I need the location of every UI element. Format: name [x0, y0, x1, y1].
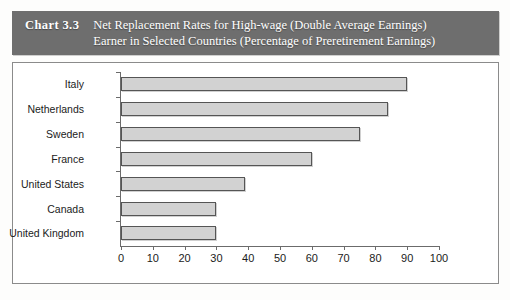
y-axis-tick [116, 196, 120, 197]
chart-title-line-2: Earner in Selected Countries (Percentage… [93, 33, 435, 49]
bar-row: Canada [13, 196, 498, 221]
y-axis-tick [116, 221, 120, 222]
bar [121, 152, 312, 166]
bar-row: France [13, 147, 498, 172]
chart-title: Chart 3.3 Net Replacement Rates for High… [25, 17, 435, 49]
y-axis-tick [116, 122, 120, 123]
chart-number-label: Chart 3.3 [25, 17, 79, 33]
x-axis-tick-label: 70 [337, 252, 349, 264]
x-axis-tick-label: 30 [210, 252, 222, 264]
bar [121, 127, 360, 141]
category-label: France [0, 153, 84, 165]
category-label: United States [0, 178, 84, 190]
x-axis-tick-label: 90 [401, 252, 413, 264]
chart-figure: Chart 3.3 Net Replacement Rates for High… [0, 0, 510, 300]
x-axis-tick [153, 246, 154, 250]
category-label: Netherlands [0, 103, 84, 115]
bar [121, 202, 216, 216]
chart-title-line-1: Net Replacement Rates for High-wage (Dou… [93, 17, 435, 33]
chart-title-text: Net Replacement Rates for High-wage (Dou… [93, 17, 435, 49]
x-axis-tick-label: 80 [369, 252, 381, 264]
plot-area: ItalyNetherlandsSwedenFranceUnited State… [13, 63, 498, 283]
bar-row: Italy [13, 72, 498, 97]
x-axis-tick-label: 60 [306, 252, 318, 264]
bar [121, 226, 216, 240]
x-axis-tick [248, 246, 249, 250]
plot-panel: ItalyNetherlandsSwedenFranceUnited State… [12, 62, 499, 284]
bar-rows: ItalyNetherlandsSwedenFranceUnited State… [13, 72, 498, 246]
x-axis-tick-label: 40 [242, 252, 254, 264]
x-axis-tick [185, 246, 186, 250]
bar [121, 177, 245, 191]
category-label: Sweden [0, 128, 84, 140]
y-axis-tick [116, 97, 120, 98]
x-axis-tick [407, 246, 408, 250]
x-axis-tick-label: 0 [118, 252, 124, 264]
bar-row: Sweden [13, 122, 498, 147]
bar [121, 77, 407, 91]
category-label: United Kingdom [0, 227, 84, 239]
bar-row: United Kingdom [13, 221, 498, 246]
x-axis-tick [312, 246, 313, 250]
x-axis-tick [121, 246, 122, 250]
y-axis-tick [116, 171, 120, 172]
x-axis-tick-label: 10 [147, 252, 159, 264]
y-axis-tick [116, 72, 120, 73]
x-axis-tick-label: 50 [274, 252, 286, 264]
bar-row: Netherlands [13, 97, 498, 122]
category-label: Italy [0, 78, 84, 90]
bar [121, 102, 388, 116]
x-axis-tick [375, 246, 376, 250]
x-axis-tick [439, 246, 440, 250]
category-label: Canada [0, 203, 84, 215]
bar-row: United States [13, 171, 498, 196]
x-axis-tick [280, 246, 281, 250]
x-axis-tick [344, 246, 345, 250]
chart-title-band: Chart 3.3 Net Replacement Rates for High… [12, 11, 499, 55]
x-axis-tick-label: 20 [178, 252, 190, 264]
x-axis-tick-label: 100 [430, 252, 448, 264]
x-axis-ticks: 0102030405060708090100 [13, 246, 498, 276]
x-axis-tick [216, 246, 217, 250]
y-axis-tick [116, 147, 120, 148]
